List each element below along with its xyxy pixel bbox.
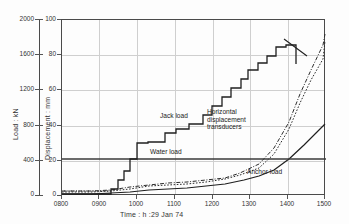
disp-tick-80: 80 bbox=[36, 50, 56, 57]
series-layer bbox=[62, 20, 326, 196]
x-tick-1100: 1100 bbox=[159, 200, 189, 207]
x-tickmark bbox=[324, 195, 325, 199]
load-tick-400: 400 bbox=[8, 156, 34, 163]
x-tick-0900: 0900 bbox=[84, 200, 114, 207]
x-tickmark bbox=[249, 195, 250, 199]
axis-label-time: Time : h :29 Jan 74 bbox=[120, 211, 183, 218]
annotation-line-3: transducers bbox=[207, 123, 246, 131]
annotation-anchor-load: Anchor load bbox=[247, 168, 282, 176]
disp-tick-60: 60 bbox=[36, 85, 56, 92]
x-tickmark bbox=[212, 195, 213, 199]
disp-tick-100: 100 bbox=[36, 15, 56, 22]
x-tick-1000: 1000 bbox=[121, 200, 151, 207]
load-tick-1600: 1600 bbox=[8, 50, 34, 57]
x-tickmark bbox=[136, 195, 137, 199]
annotation-line-1: Horizontal bbox=[207, 108, 246, 116]
annotation-line-2: displacement bbox=[207, 116, 246, 124]
x-tickmark bbox=[98, 195, 99, 199]
x-tickmark bbox=[61, 195, 62, 199]
x-tick-1200: 1200 bbox=[197, 200, 227, 207]
axis-label-displacement: Displacement : mm bbox=[44, 97, 51, 160]
series-transducer-b bbox=[62, 41, 325, 192]
x-tickmark bbox=[174, 195, 175, 199]
x-tick-1300: 1300 bbox=[234, 200, 264, 207]
x-tick-0800: 0800 bbox=[46, 200, 76, 207]
load-tick-0: 0 bbox=[8, 190, 34, 197]
load-tick-800: 800 bbox=[8, 121, 34, 128]
load-axis-spine bbox=[39, 19, 40, 195]
chart-figure: Load : kN 2000 1600 1200 800 400 0 Displ… bbox=[0, 0, 349, 224]
plot-area: Jack load Horizontal displacement transd… bbox=[61, 19, 325, 195]
disp-tick-20: 20 bbox=[36, 156, 56, 163]
disp-tick-0: 0 bbox=[36, 190, 56, 197]
annotation-water-load: Water load bbox=[150, 148, 182, 156]
annotation-jack-load: Jack load bbox=[160, 112, 188, 120]
series-transducer-a bbox=[62, 34, 325, 191]
load-tick-2000: 2000 bbox=[8, 15, 34, 22]
load-tick-1200: 1200 bbox=[8, 85, 34, 92]
x-tick-1400: 1400 bbox=[272, 200, 302, 207]
x-tick-1500: 1500 bbox=[309, 200, 339, 207]
x-tickmark bbox=[287, 195, 288, 199]
annotation-horizontal-displacement-transducers: Horizontal displacement transducers bbox=[207, 108, 246, 131]
disp-tick-40: 40 bbox=[36, 121, 56, 128]
